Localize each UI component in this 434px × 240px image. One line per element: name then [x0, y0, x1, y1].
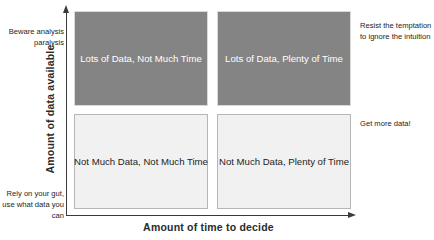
quadrant-label: Not Much Data, Not Much Time	[74, 156, 208, 168]
quadrant-grid: Lots of Data, Not Much Time Lots of Data…	[74, 11, 351, 209]
quadrant-matrix-diagram: Amount of data available Amount of time …	[0, 0, 434, 240]
quadrant-label: Not Much Data, Plenty of Time	[219, 156, 349, 168]
annotation-get-more-data: Get more data!	[360, 119, 434, 130]
quadrant-label: Lots of Data, Not Much Time	[80, 53, 202, 65]
quadrant-lots-data-not-much-time[interactable]: Lots of Data, Not Much Time	[74, 11, 208, 106]
quadrant-not-much-data-plenty-time[interactable]: Not Much Data, Plenty of Time	[217, 114, 351, 209]
x-axis-line	[66, 215, 351, 216]
y-axis-arrowhead-icon	[63, 5, 69, 13]
annotation-resist-temptation: Resist the temptation to ignore the intu…	[360, 21, 434, 43]
x-axis-title: Amount of time to decide	[66, 221, 351, 233]
y-axis-line	[66, 12, 67, 216]
quadrant-label: Lots of Data, Plenty of Time	[225, 53, 343, 65]
annotation-rely-on-your-gut: Rely on your gut, use what data you can	[2, 189, 64, 221]
quadrant-not-much-data-not-much-time[interactable]: Not Much Data, Not Much Time	[74, 114, 208, 209]
x-axis-arrowhead-icon	[348, 212, 356, 218]
annotation-beware-analysis-paralysis: Beware analysis paralysis	[2, 27, 64, 49]
quadrant-lots-data-plenty-time[interactable]: Lots of Data, Plenty of Time	[217, 11, 351, 106]
